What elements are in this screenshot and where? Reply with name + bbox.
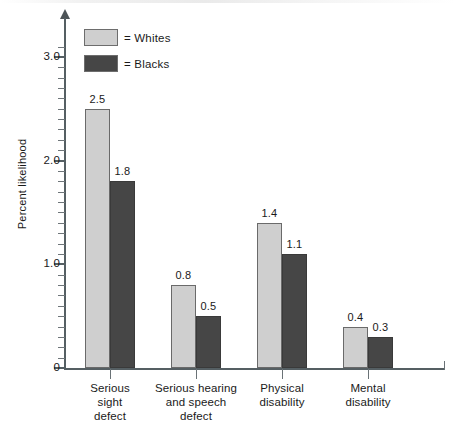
bar-value-label: 1.8 [103,166,143,177]
y-axis-minor-tick [58,67,65,68]
y-axis-minor-tick [58,327,65,328]
legend-item-whites: = Whites [84,29,171,46]
bar-blacks-group-1 [110,181,135,368]
y-axis-minor-tick [58,129,65,130]
category-label-line: Mental [308,381,428,395]
bar-whites-group-2 [171,285,196,368]
y-axis-minor-tick [58,119,65,120]
bar-blacks-group-2 [196,316,221,368]
legend-swatch-blacks [84,55,118,72]
x-axis-category-tick [282,369,283,379]
y-axis-minor-tick [58,171,65,172]
y-axis-minor-tick [58,88,65,89]
y-axis-minor-tick [58,150,65,151]
legend-item-blacks: = Blacks [84,55,171,72]
legend-swatch-whites [84,29,118,46]
y-axis-minor-tick [58,223,65,224]
legend-label-blacks: = Blacks [124,58,169,70]
x-axis-end-tick [444,361,445,370]
y-axis-minor-tick [58,78,65,79]
bar-blacks-group-3 [282,254,307,368]
x-axis-category-tick [110,369,111,379]
y-axis-minor-tick [58,295,65,296]
x-axis-category-tick [196,369,197,379]
y-axis-minor-tick [58,140,65,141]
y-axis-minor-tick [58,337,65,338]
y-axis-minor-tick [58,233,65,234]
bar-value-label: 0.8 [164,270,204,281]
y-axis-tick-label: 0 [14,362,60,374]
y-axis-minor-tick [58,316,65,317]
y-axis-tick-label: 1.0 [14,258,60,270]
bar-chart: 3.02.01.00 Percent likelihood = Whites =… [0,0,455,429]
legend: = Whites = Blacks [84,29,171,81]
scan-artifact [0,0,455,3]
bar-blacks-group-4 [368,337,393,368]
category-label-line: defect [136,409,256,423]
bar-value-label: 1.1 [275,239,315,250]
bar-value-label: 2.5 [78,94,118,105]
y-axis-minor-tick [58,181,65,182]
y-axis-minor-tick [58,109,65,110]
y-axis-minor-tick [58,254,65,255]
bar-value-label: 0.3 [361,322,401,333]
y-axis-minor-tick [58,275,65,276]
y-axis-minor-tick [58,202,65,203]
y-axis-minor-tick [58,285,65,286]
bar-whites-group-1 [85,109,110,368]
y-axis-minor-tick [58,358,65,359]
y-axis-minor-tick [58,306,65,307]
bar-value-label: 0.4 [336,312,376,323]
x-axis-category-label: Mentaldisability [308,381,428,409]
y-axis-minor-tick [58,244,65,245]
y-axis-minor-tick [58,47,65,48]
legend-label-whites: = Whites [124,32,171,44]
x-axis-category-tick [368,369,369,379]
bar-value-label: 1.4 [250,208,290,219]
x-axis-line [64,368,445,370]
y-axis-minor-tick [58,347,65,348]
y-axis-minor-tick [58,192,65,193]
bar-value-label: 0.5 [189,301,229,312]
category-label-line: disability [308,395,428,409]
y-axis-tick-label: 3.0 [14,51,60,63]
y-axis-minor-tick [58,212,65,213]
y-axis-minor-tick [58,98,65,99]
y-axis-title: Percent likelihood [16,134,28,234]
